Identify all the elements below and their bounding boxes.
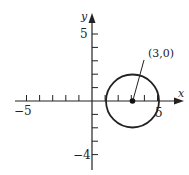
x-axis-label: x [178,87,185,100]
center-annotation-label: (3,0) [148,47,174,60]
y-axis-label: y [80,10,88,23]
coordinate-plane: (3,0) x y −5 5 5 −4 [0,0,189,175]
annotation-pointer [133,60,144,100]
x-max-tick-label: 5 [155,106,163,120]
y-axis-arrow-icon [89,13,96,23]
x-min-tick-label: −5 [14,104,32,118]
y-axis-ticks [92,34,98,155]
y-min-tick-label: −4 [73,148,91,162]
y-max-tick-label: 5 [80,27,88,41]
center-point [130,98,136,104]
